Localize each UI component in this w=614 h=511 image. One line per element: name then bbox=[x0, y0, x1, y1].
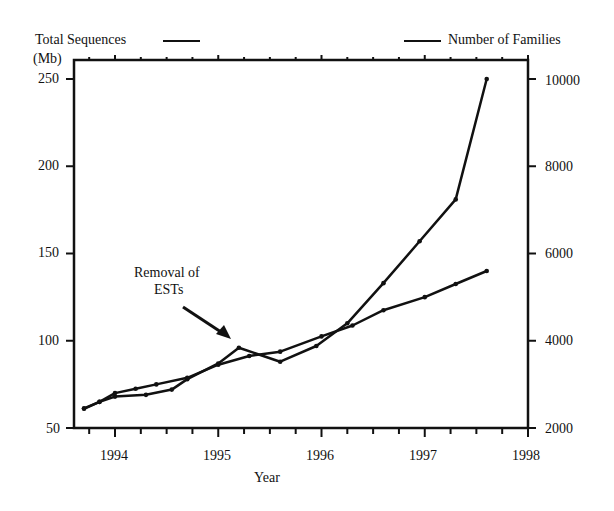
data-point bbox=[82, 406, 87, 411]
chart-plot bbox=[0, 0, 614, 511]
data-point bbox=[216, 362, 221, 367]
data-point bbox=[417, 239, 422, 244]
data-point bbox=[144, 393, 149, 398]
data-point bbox=[97, 400, 102, 405]
data-point bbox=[113, 391, 118, 396]
data-point bbox=[185, 376, 190, 381]
right-tick-2000: 2000 bbox=[545, 421, 573, 437]
left-tick-50: 50 bbox=[46, 421, 60, 437]
data-point bbox=[278, 349, 283, 354]
series-total-sequences bbox=[84, 79, 487, 409]
data-point bbox=[453, 282, 458, 287]
data-point bbox=[381, 308, 386, 313]
data-point bbox=[247, 354, 252, 359]
x-tick-1994: 1994 bbox=[100, 448, 128, 464]
data-point bbox=[345, 321, 350, 326]
data-point bbox=[381, 281, 386, 286]
x-tick-1997: 1997 bbox=[409, 448, 437, 464]
legend-number-of-families: Number of Families bbox=[448, 32, 561, 48]
data-point bbox=[133, 386, 138, 391]
data-point bbox=[154, 382, 159, 387]
data-point bbox=[484, 77, 489, 82]
data-point bbox=[169, 387, 174, 392]
plot-frame bbox=[74, 60, 528, 428]
x-axis-label: Year bbox=[254, 470, 280, 486]
series-number-of-families bbox=[84, 271, 487, 408]
right-tick-10000: 10000 bbox=[545, 73, 580, 89]
x-tick-1995: 1995 bbox=[203, 448, 231, 464]
left-tick-100: 100 bbox=[38, 333, 59, 349]
left-tick-150: 150 bbox=[38, 245, 59, 261]
data-point bbox=[319, 334, 324, 339]
data-point bbox=[453, 197, 458, 202]
left-axis-unit: (Mb) bbox=[33, 51, 62, 67]
data-point bbox=[278, 359, 283, 364]
left-tick-250: 250 bbox=[38, 71, 59, 87]
data-point bbox=[314, 344, 319, 349]
annotation-ests: ESTs bbox=[154, 282, 183, 298]
data-point bbox=[237, 345, 242, 350]
x-tick-1998: 1998 bbox=[512, 448, 540, 464]
right-tick-4000: 4000 bbox=[545, 333, 573, 349]
data-point bbox=[350, 323, 355, 328]
annotation-removal-of: Removal of bbox=[134, 265, 200, 281]
x-tick-1996: 1996 bbox=[306, 448, 334, 464]
annotation-arrow bbox=[183, 307, 231, 339]
left-tick-200: 200 bbox=[38, 158, 59, 174]
data-point bbox=[484, 269, 489, 274]
legend-total-sequences: Total Sequences bbox=[35, 32, 126, 48]
right-tick-8000: 8000 bbox=[545, 159, 573, 175]
right-tick-6000: 6000 bbox=[545, 246, 573, 262]
data-point bbox=[422, 295, 427, 300]
